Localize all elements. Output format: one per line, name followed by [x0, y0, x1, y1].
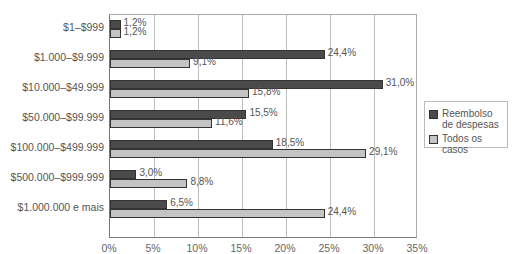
bar	[110, 179, 187, 188]
bar	[110, 80, 383, 89]
category-label: $1.000.000 e mais	[18, 201, 104, 213]
x-tick-label: 5%	[145, 242, 160, 254]
bar	[110, 140, 273, 149]
category-label: $10.000–$49.999	[22, 81, 104, 93]
bar	[110, 170, 136, 179]
bar	[110, 50, 325, 59]
value-label: 3,0%	[139, 168, 162, 178]
value-label: 1,2%	[124, 27, 147, 37]
legend-swatch-light	[429, 135, 438, 144]
x-tick-label: 15%	[230, 242, 251, 254]
bar	[110, 119, 212, 128]
bar	[110, 59, 190, 68]
value-label: 8,8%	[190, 177, 213, 187]
value-label: 24,4%	[328, 207, 356, 217]
legend-label: Todos os casos	[442, 133, 507, 155]
legend-item-todos: Todos os casos	[429, 133, 507, 155]
bar	[110, 149, 366, 158]
value-label: 15,5%	[249, 108, 277, 118]
bar	[110, 20, 121, 29]
category-label: $100.000–$499.999	[11, 141, 104, 153]
x-tick-label: 35%	[406, 242, 427, 254]
category-label: $50.000–$99.999	[22, 111, 104, 123]
value-label: 6,5%	[170, 198, 193, 208]
bar	[110, 89, 249, 98]
x-tick-label: 20%	[274, 242, 295, 254]
legend-swatch-dark	[429, 110, 438, 119]
legend-item-reembolso: Reembolso de despesas	[429, 108, 499, 130]
value-label: 31,0%	[386, 78, 414, 88]
value-label: 9,1%	[193, 57, 216, 67]
category-label: $500.000–$999.999	[11, 171, 104, 183]
gridline	[374, 15, 375, 237]
value-label: 24,4%	[328, 48, 356, 58]
value-label: 29,1%	[369, 147, 397, 157]
bar	[110, 200, 167, 209]
legend: Reembolso de despesas Todos os casos	[424, 101, 508, 148]
gridline	[286, 15, 287, 237]
x-tick-label: 25%	[318, 242, 339, 254]
category-label: $1–$999	[63, 21, 104, 33]
value-label: 15,8%	[252, 87, 280, 97]
plot-area	[109, 14, 417, 238]
bar	[110, 29, 121, 38]
x-tick-label: 30%	[362, 242, 383, 254]
x-tick-label: 10%	[186, 242, 207, 254]
value-label: 18,5%	[276, 138, 304, 148]
legend-label: de despesas	[442, 119, 499, 130]
value-label: 11,6%	[215, 117, 243, 127]
bar	[110, 209, 325, 218]
category-label: $1.000–$9.999	[34, 51, 104, 63]
legend-label: Reembolso	[442, 108, 493, 119]
x-tick-label: 0%	[101, 242, 116, 254]
